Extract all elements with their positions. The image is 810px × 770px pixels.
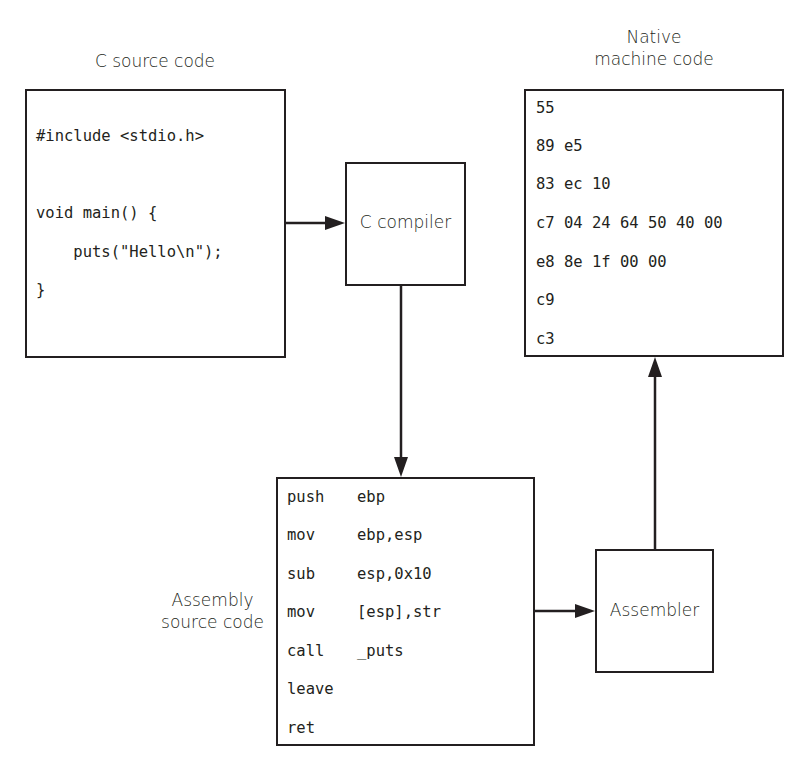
arrow-compiler-to-assembly: [394, 286, 408, 477]
arrow-assembler-to-machine-code: [648, 357, 662, 549]
arrow-c-source-to-compiler: [286, 216, 345, 230]
arrow-assembly-to-assembler: [535, 604, 595, 618]
arrows-layer: [0, 0, 810, 770]
